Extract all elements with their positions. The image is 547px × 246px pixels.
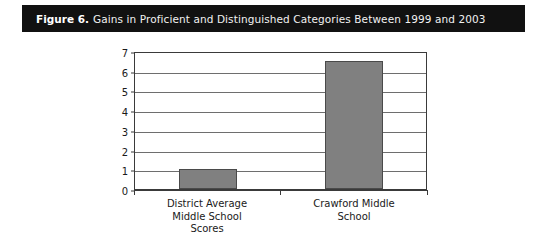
x-axis-tick [134,190,135,195]
x-category-label-line: Middle School [134,211,280,224]
y-axis-tick [131,92,135,93]
plot-area: 01234567 [134,52,427,190]
y-axis-tick [131,72,135,73]
y-axis-tick [131,171,135,172]
y-axis-tick [131,131,135,132]
y-axis-tick-label: 3 [122,126,128,137]
x-category-label-line: Scores [134,223,280,236]
y-axis-tick-label: 1 [122,166,128,177]
y-axis-tick-label: 5 [122,87,128,98]
x-category-label: District AverageMiddle SchoolScores [134,198,280,236]
x-category-label-line: Crawford Middle [281,198,427,211]
y-axis-tick-label: 7 [122,48,128,59]
x-category-label-line: District Average [134,198,280,211]
bar-chart: 01234567 District AverageMiddle SchoolSc… [0,32,547,246]
bar [179,169,237,189]
figure-number-label: Figure 6. [36,13,89,25]
y-axis-tick [131,151,135,152]
x-axis-tick [280,190,281,195]
y-axis-tick-label: 0 [122,186,128,197]
y-axis-tick [131,112,135,113]
figure-caption: Gains in Proficient and Distinguished Ca… [93,13,486,25]
x-category-label-line: School [281,211,427,224]
bar [325,61,383,189]
x-category-label: Crawford MiddleSchool [281,198,427,223]
y-axis-tick-label: 4 [122,107,128,118]
y-axis-tick-label: 2 [122,146,128,157]
y-axis-tick [131,53,135,54]
x-axis-tick [427,190,428,195]
figure-title-bar: Figure 6. Gains in Proficient and Distin… [22,5,525,32]
y-axis-tick-label: 6 [122,67,128,78]
